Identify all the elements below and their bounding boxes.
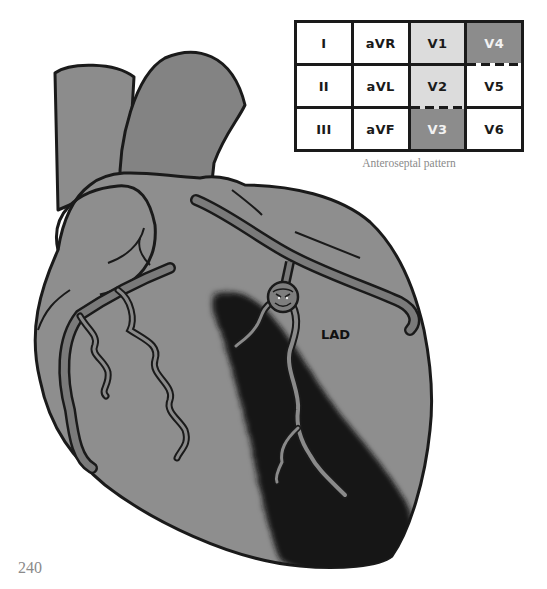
lead-cell-v3: V3 xyxy=(411,109,465,149)
lead-cell-v4: V4 xyxy=(467,23,521,63)
lead-cell-v2: V2 xyxy=(411,66,465,106)
ecg-lead-table: I aVR V1 V4 II aVL V2 V5 III aVF V3 V6 xyxy=(294,20,524,152)
lead-cell-avr: aVR xyxy=(354,23,408,63)
lead-cell-iii: III xyxy=(297,109,351,149)
lead-cell-avl: aVL xyxy=(354,66,408,106)
clot-icon xyxy=(268,282,298,312)
lead-cell-avf: aVF xyxy=(354,109,408,149)
lead-cell-ii: II xyxy=(297,66,351,106)
figure-caption: Anteroseptal pattern xyxy=(294,157,524,169)
page-number: 240 xyxy=(18,559,42,577)
lead-cell-v1: V1 xyxy=(411,23,465,63)
lad-label: LAD xyxy=(321,327,350,342)
lead-cell-v5: V5 xyxy=(467,66,521,106)
lead-cell-v6: V6 xyxy=(467,109,521,149)
lead-cell-i: I xyxy=(297,23,351,63)
